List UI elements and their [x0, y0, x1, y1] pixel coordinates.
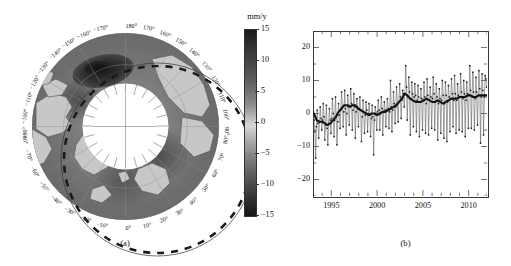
- data-point: [314, 131, 316, 133]
- data-point: [421, 98, 423, 100]
- colorbar-tick-label: −15: [261, 211, 274, 219]
- data-point: [390, 80, 392, 82]
- data-point: [416, 131, 418, 133]
- data-point: [476, 91, 478, 93]
- data-point: [425, 133, 427, 135]
- data-point: [446, 141, 448, 143]
- data-point: [377, 100, 379, 102]
- data-point: [484, 75, 486, 77]
- data-point: [445, 95, 447, 97]
- data-point: [324, 139, 326, 141]
- data-point: [410, 134, 412, 136]
- data-point: [469, 65, 471, 67]
- data-point: [455, 93, 457, 95]
- data-point: [332, 113, 334, 115]
- data-point: [441, 100, 443, 102]
- data-point: [345, 108, 346, 110]
- data-point: [337, 121, 339, 123]
- data-point: [413, 126, 415, 128]
- colorbar-title: mm/y: [234, 12, 280, 21]
- data-point: [466, 81, 468, 83]
- data-point: [374, 119, 376, 121]
- data-point: [384, 101, 386, 103]
- data-point: [364, 133, 366, 135]
- data-point: [438, 103, 440, 105]
- colorbar-tick: [255, 91, 259, 92]
- data-point: [359, 96, 361, 98]
- longitude-label: 0°: [126, 224, 131, 230]
- data-point: [343, 111, 345, 113]
- data-point: [452, 126, 454, 128]
- data-point: [368, 103, 370, 105]
- data-point: [445, 81, 447, 83]
- data-point: [339, 128, 341, 130]
- data-point: [455, 133, 457, 135]
- data-point: [426, 103, 428, 105]
- x-tick-label: 1995: [314, 202, 348, 210]
- data-point: [392, 109, 394, 111]
- data-point: [427, 95, 429, 97]
- data-point: [414, 83, 416, 85]
- data-point: [370, 136, 372, 138]
- data-point: [342, 126, 344, 128]
- data-point: [465, 100, 467, 102]
- colorbar-tick-label: −5: [261, 149, 270, 157]
- data-point: [321, 129, 323, 131]
- data-point: [457, 83, 459, 85]
- data-point: [405, 65, 407, 67]
- x-tick-label: 2005: [406, 202, 440, 210]
- data-point: [462, 98, 464, 100]
- data-point: [456, 100, 458, 102]
- data-point: [381, 108, 383, 110]
- data-point: [481, 73, 483, 75]
- colorbar-tick-label: −10: [261, 180, 274, 188]
- data-point: [448, 85, 450, 87]
- longitude-label: 180°: [126, 22, 138, 28]
- data-point: [347, 95, 349, 97]
- data-point: [428, 134, 430, 136]
- data-point: [338, 103, 340, 105]
- data-point: [344, 90, 346, 92]
- y-tick-label: 20: [288, 43, 310, 51]
- colorbar-tick-label: 0: [261, 118, 265, 126]
- data-point: [322, 119, 324, 121]
- data-point: [385, 126, 387, 128]
- longitude-label: −80°: [21, 132, 29, 145]
- data-point: [399, 83, 401, 85]
- data-point: [415, 95, 417, 97]
- data-point: [442, 95, 444, 97]
- data-point: [397, 121, 399, 123]
- data-point: [403, 106, 405, 108]
- data-point: [411, 81, 413, 83]
- data-point: [355, 138, 357, 140]
- data-point: [317, 123, 319, 125]
- data-point: [475, 76, 477, 78]
- colorbar-tick-label: 5: [261, 87, 265, 95]
- data-point: [479, 88, 481, 90]
- data-point: [335, 96, 337, 98]
- data-point: [356, 98, 358, 100]
- data-point: [365, 101, 367, 103]
- panel-b-caption: (b): [300, 238, 511, 248]
- longitude-label: −170°: [93, 24, 109, 33]
- data-point: [408, 76, 410, 78]
- data-point: [480, 96, 482, 98]
- data-point: [377, 111, 379, 113]
- data-point: [352, 109, 354, 111]
- colorbar-tick: [255, 29, 259, 30]
- data-point: [448, 96, 450, 98]
- data-point: [412, 93, 414, 95]
- data-point: [482, 90, 484, 92]
- data-point: [458, 129, 460, 131]
- panel-a-polar-map: 180°170°160°150°140°130°120°110°100°90°8…: [0, 0, 250, 266]
- data-point: [451, 78, 453, 80]
- colorbar-tick: [255, 215, 259, 216]
- y-tick-label: −20: [288, 175, 310, 183]
- data-point: [485, 78, 487, 80]
- data-point: [437, 139, 439, 141]
- data-point: [316, 126, 318, 128]
- data-point: [391, 131, 393, 133]
- data-point: [453, 100, 455, 102]
- longitude-label: −10°: [96, 221, 109, 229]
- data-point: [351, 103, 353, 105]
